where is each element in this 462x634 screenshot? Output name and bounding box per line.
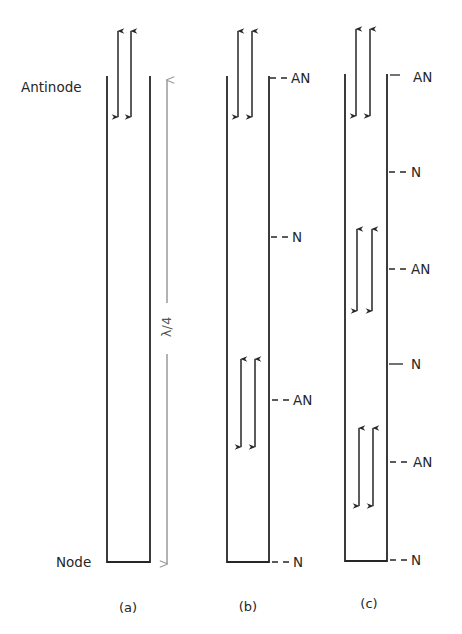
tube-a-outline <box>107 77 150 562</box>
marker-c-5: AN <box>390 454 432 470</box>
displacement-arrows-b-top <box>238 31 252 117</box>
node-label: Node <box>56 554 91 570</box>
displacement-arrows-b-middle <box>241 359 255 447</box>
marker-label: N <box>293 554 303 570</box>
marker-label: AN <box>413 69 432 85</box>
tube-b-outline <box>227 77 269 562</box>
caption-a: (a) <box>119 600 137 615</box>
displacement-arrows-a-top <box>118 31 131 117</box>
antinode-label: Antinode <box>21 79 82 95</box>
marker-c-2: N <box>389 164 421 180</box>
displacement-arrows-c-top <box>356 29 370 116</box>
marker-label: AN <box>293 392 312 408</box>
caption-b: (b) <box>239 599 257 614</box>
marker-label: AN <box>413 454 432 470</box>
quarter-wavelength-label: λ/4 <box>159 317 174 337</box>
displacement-arrows-c-middle <box>357 229 372 311</box>
marker-label: AN <box>291 70 310 86</box>
displacement-arrows-c-lower <box>359 428 373 506</box>
marker-label: AN <box>411 261 430 277</box>
marker-c-1: AN <box>390 69 432 85</box>
marker-c-6: N <box>390 552 421 568</box>
panel-c: AN N AN N AN N (c) <box>345 29 432 611</box>
tube-c-outline <box>345 75 387 561</box>
marker-label: N <box>411 164 421 180</box>
quarter-wavelength-arrow: λ/4 <box>159 80 174 564</box>
marker-b-1: AN <box>270 70 310 86</box>
marker-label: N <box>411 552 421 568</box>
marker-b-4: N <box>272 554 303 570</box>
panel-a: Antinode Node λ/4 (a) <box>21 31 174 615</box>
standing-wave-tubes-diagram: Antinode Node λ/4 (a) AN N <box>0 0 462 634</box>
marker-label: N <box>411 356 421 372</box>
caption-c: (c) <box>360 596 377 611</box>
marker-c-4: N <box>389 356 421 372</box>
marker-b-2: N <box>271 229 302 245</box>
marker-b-3: AN <box>272 392 312 408</box>
panel-b: AN N AN N (b) <box>227 31 312 614</box>
marker-c-3: AN <box>389 261 430 277</box>
marker-label: N <box>292 229 302 245</box>
